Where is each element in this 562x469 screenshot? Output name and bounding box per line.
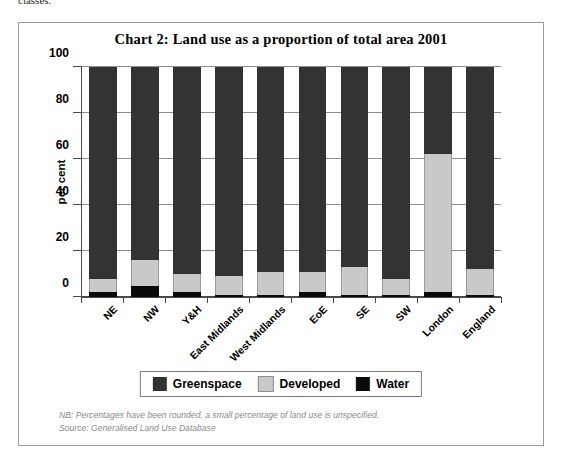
footnote-note: NB: Percentages have been rounded, a sma…	[59, 409, 499, 422]
x-axis-tick	[501, 297, 502, 303]
bar-segment-greenspace[interactable]	[382, 67, 410, 279]
bar-segment-greenspace[interactable]	[299, 67, 327, 272]
stacked-bar[interactable]	[341, 67, 369, 297]
legend-label: Greenspace	[173, 377, 242, 391]
bar-slot	[250, 67, 292, 297]
bar-segment-developed[interactable]	[257, 272, 285, 295]
bar-slot	[292, 67, 334, 297]
x-axis-label: NW	[141, 303, 162, 324]
y-axis-tick-label: 60	[56, 138, 69, 152]
x-axis-label: England	[460, 303, 498, 341]
legend-item[interactable]: Greenspace	[153, 377, 242, 391]
chart-figure-frame: Chart 2: Land use as a proportion of tot…	[18, 22, 544, 446]
page-body-text-stub: classes.	[18, 0, 51, 6]
bar-segment-greenspace[interactable]	[215, 67, 243, 276]
bar-segment-greenspace[interactable]	[341, 67, 369, 267]
bar-segment-developed[interactable]	[424, 154, 452, 292]
x-axis-label: SW	[393, 303, 413, 323]
bar-segment-developed[interactable]	[131, 260, 159, 285]
bar-segment-developed[interactable]	[382, 279, 410, 295]
y-axis-tick-label: 0	[62, 276, 69, 290]
legend-item[interactable]: Developed	[258, 376, 341, 392]
bar-segment-greenspace[interactable]	[424, 67, 452, 154]
bar-segment-water[interactable]	[131, 286, 159, 298]
chart-legend: GreenspaceDevelopedWater	[140, 371, 422, 397]
y-axis-tick	[73, 66, 82, 67]
bar-segment-developed[interactable]	[299, 272, 327, 293]
bar-slot	[375, 67, 417, 297]
y-axis-tick-label: 80	[56, 92, 69, 106]
y-axis-tick	[73, 158, 82, 159]
bar-slot	[166, 67, 208, 297]
stacked-bar[interactable]	[89, 67, 117, 297]
footnote-source: Source: Generalised Land Use Database	[59, 422, 499, 435]
legend-swatch-greenspace	[153, 377, 167, 391]
chart-footnote: NB: Percentages have been rounded, a sma…	[59, 409, 499, 436]
y-axis-tick	[73, 204, 82, 205]
bar-group	[82, 67, 501, 297]
stacked-bar[interactable]	[257, 67, 285, 297]
bar-slot	[417, 67, 459, 297]
stacked-bar[interactable]	[382, 67, 410, 297]
bar-segment-developed[interactable]	[215, 276, 243, 294]
bar-segment-developed[interactable]	[466, 269, 494, 294]
bar-slot	[208, 67, 250, 297]
bar-segment-greenspace[interactable]	[257, 67, 285, 272]
x-axis-label: EoE	[307, 303, 330, 326]
x-axis-label: Y&H	[180, 303, 204, 327]
bar-segment-greenspace[interactable]	[131, 67, 159, 260]
bar-segment-developed[interactable]	[173, 274, 201, 292]
legend-label: Water	[376, 377, 409, 391]
plot-area: 020406080100	[81, 67, 501, 297]
legend-label: Developed	[280, 377, 341, 391]
chart-title: Chart 2: Land use as a proportion of tot…	[19, 31, 543, 48]
stacked-bar[interactable]	[466, 67, 494, 297]
bar-segment-greenspace[interactable]	[173, 67, 201, 274]
plot-area-wrapper: 020406080100	[81, 67, 501, 297]
bar-slot	[82, 67, 124, 297]
legend-swatch-water	[356, 377, 370, 391]
legend-swatch-developed	[258, 376, 274, 392]
x-axis-label: London	[420, 303, 456, 339]
stacked-bar[interactable]	[131, 67, 159, 297]
y-axis-tick	[73, 112, 82, 113]
stacked-bar[interactable]	[173, 67, 201, 297]
x-axis-labels: NENWY&HEast MidlandsWest MidlandsEoESESW…	[81, 301, 501, 363]
legend-item[interactable]: Water	[356, 377, 409, 391]
stacked-bar[interactable]	[299, 67, 327, 297]
bar-slot	[459, 67, 501, 297]
bar-slot	[333, 67, 375, 297]
y-axis-tick-label: 20	[56, 230, 69, 244]
y-axis-tick	[73, 250, 82, 251]
bar-segment-developed[interactable]	[341, 267, 369, 295]
y-axis-tick-label: 100	[49, 46, 69, 60]
y-axis-tick-label: 40	[56, 184, 69, 198]
x-axis-label: NE	[101, 303, 120, 322]
x-axis-label: SE	[353, 303, 371, 321]
bar-segment-greenspace[interactable]	[466, 67, 494, 269]
bar-segment-developed[interactable]	[89, 279, 117, 293]
stacked-bar[interactable]	[424, 67, 452, 297]
stacked-bar[interactable]	[215, 67, 243, 297]
bar-segment-greenspace[interactable]	[89, 67, 117, 279]
bar-slot	[124, 67, 166, 297]
